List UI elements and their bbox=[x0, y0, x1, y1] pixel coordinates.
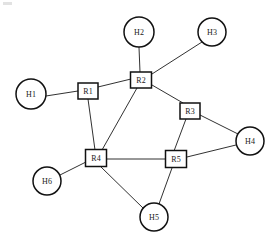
node-r4[interactable]: R4 bbox=[86, 150, 107, 167]
node-label-h5: H5 bbox=[149, 213, 159, 222]
edge-r3-r5 bbox=[174, 119, 186, 151]
node-h2[interactable]: H2 bbox=[124, 17, 154, 47]
node-label-r3: R3 bbox=[185, 107, 195, 116]
node-h4[interactable]: H4 bbox=[236, 127, 264, 155]
edge-r5-h5 bbox=[159, 168, 172, 204]
node-h3[interactable]: H3 bbox=[198, 18, 226, 46]
node-label-h1: H1 bbox=[26, 90, 36, 99]
edges-layer bbox=[46, 42, 238, 208]
node-label-r4: R4 bbox=[91, 154, 101, 163]
edge-r4-h6 bbox=[60, 162, 86, 175]
topology-canvas: H1 H2 H3 H4 H5 H6 bbox=[0, 0, 278, 246]
edge-r5-h4 bbox=[187, 145, 236, 157]
node-label-h3: H3 bbox=[207, 28, 217, 37]
edge-r3-h4 bbox=[200, 115, 238, 134]
edge-r1-r4 bbox=[88, 99, 95, 150]
node-label-r5: R5 bbox=[171, 155, 181, 164]
edge-r2-h3 bbox=[152, 42, 202, 74]
hosts-layer: H1 H2 H3 H4 H5 H6 bbox=[16, 17, 264, 231]
node-label-r1: R1 bbox=[83, 87, 93, 96]
edge-h2-r2 bbox=[139, 47, 140, 72]
edge-r2-r4 bbox=[102, 88, 137, 150]
node-h6[interactable]: H6 bbox=[33, 167, 61, 195]
node-h5[interactable]: H5 bbox=[140, 203, 168, 231]
node-label-h2: H2 bbox=[134, 28, 144, 37]
scan-artifact bbox=[3, 2, 12, 5]
edge-r1-r2 bbox=[98, 79, 131, 87]
node-label-h4: H4 bbox=[245, 137, 255, 146]
routers-layer: R1 R2 R3 R4 R5 bbox=[78, 72, 200, 168]
node-label-h6: H6 bbox=[42, 177, 52, 186]
node-r2[interactable]: R2 bbox=[131, 72, 152, 88]
node-r3[interactable]: R3 bbox=[180, 103, 200, 119]
node-r5[interactable]: R5 bbox=[166, 151, 187, 168]
edge-r4-h5 bbox=[101, 167, 143, 208]
node-h1[interactable]: H1 bbox=[16, 79, 46, 109]
edge-h1-r1 bbox=[46, 91, 78, 96]
node-r1[interactable]: R1 bbox=[78, 83, 98, 99]
edge-r2-r3 bbox=[152, 85, 183, 103]
network-topology-diagram: H1 H2 H3 H4 H5 H6 bbox=[0, 0, 278, 246]
node-label-r2: R2 bbox=[136, 76, 146, 85]
